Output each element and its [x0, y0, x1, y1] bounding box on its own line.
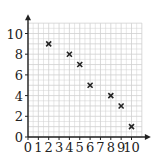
axes — [25, 14, 151, 140]
grid-lines — [28, 23, 142, 137]
x-tick-label: 0 — [24, 140, 32, 155]
x-tick-label: 8 — [107, 140, 115, 155]
x-tick-label: 1 — [34, 140, 42, 155]
y-tick-label: 0 — [15, 130, 23, 145]
x-tick-label: 5 — [76, 140, 84, 155]
y-tick-label: 2 — [15, 109, 23, 124]
x-axis-arrow-icon — [145, 134, 151, 140]
x-tick-label: 4 — [65, 140, 73, 155]
x-tick-label: 3 — [55, 140, 63, 155]
x-tick-label: 2 — [45, 140, 53, 155]
y-tick-label: 10 — [6, 27, 23, 42]
y-tick-label: 8 — [15, 47, 23, 62]
y-axis-arrow-icon — [25, 14, 31, 20]
x-tick-label: 10 — [123, 140, 140, 155]
x-tick-label: 7 — [96, 140, 104, 155]
y-tick-label: 4 — [15, 89, 23, 104]
y-tick-label: 6 — [15, 68, 23, 83]
x-tick-labels: 012345678910 — [24, 140, 140, 155]
y-tick-labels: 0246810 — [6, 27, 23, 146]
x-tick-label: 6 — [86, 140, 94, 155]
scatter-chart: 012345678910 0246810 — [0, 0, 157, 160]
